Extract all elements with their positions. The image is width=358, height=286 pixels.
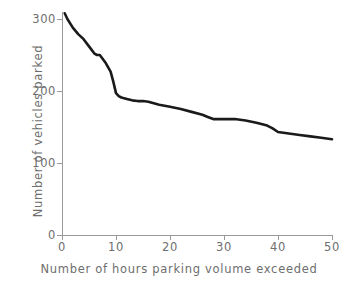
x-axis-title: Number of hours parking volume exceeded [0, 262, 358, 276]
chart-plot-area [0, 0, 358, 286]
chart-figure: 3002001000 01020304050 Number of vehicle… [0, 0, 358, 286]
y-axis-title: Number of vehicles parked [31, 31, 45, 231]
data-series-line [65, 13, 332, 139]
